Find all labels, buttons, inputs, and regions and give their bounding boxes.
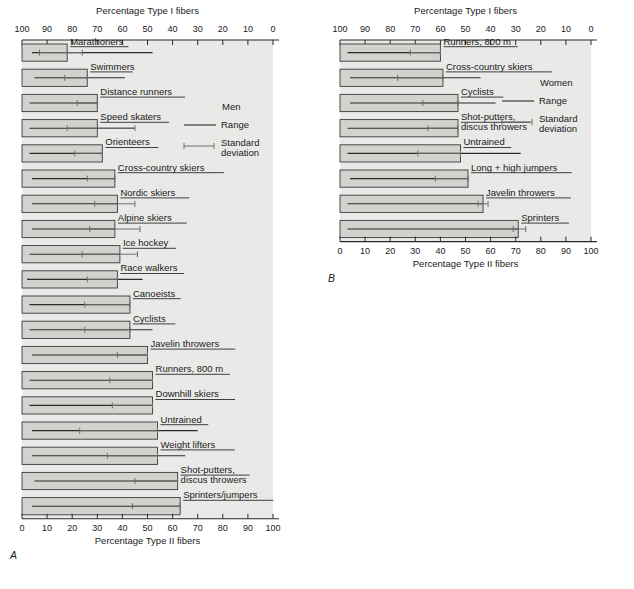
- figure-root: Percentage Type I fibers1009080706050403…: [0, 0, 634, 589]
- bottom-tick-label: 40: [435, 246, 445, 256]
- top-tick-label: 70: [92, 24, 102, 34]
- top-tick-label: 0: [588, 24, 593, 34]
- legend-range-label: Range: [221, 119, 249, 130]
- bottom-tick-label: 80: [218, 523, 228, 533]
- bar-label: Untrained: [463, 136, 504, 147]
- bottom-tick-label: 60: [168, 523, 178, 533]
- bar-label: Long + high jumpers: [471, 162, 558, 173]
- top-tick-label: 20: [536, 24, 546, 34]
- bar-label: Marathoners: [70, 36, 124, 47]
- top-axis-title: Percentage Type I fibers: [96, 5, 199, 16]
- bottom-tick-label: 70: [511, 246, 521, 256]
- top-tick-label: 50: [460, 24, 470, 34]
- bottom-tick-label: 100: [583, 246, 598, 256]
- bottom-tick-label: 80: [536, 246, 546, 256]
- top-tick-label: 20: [218, 24, 228, 34]
- bottom-tick-label: 50: [142, 523, 152, 533]
- top-tick-label: 30: [511, 24, 521, 34]
- panel-a-svg: Percentage Type I fibers1009080706050403…: [0, 0, 320, 589]
- bar-label: Downhill skiers: [156, 388, 220, 399]
- legend-sd-label-2: deviation: [221, 147, 259, 158]
- panel-letter: B: [328, 272, 335, 284]
- top-tick-label: 70: [410, 24, 420, 34]
- bottom-tick-label: 60: [486, 246, 496, 256]
- bottom-tick-label: 0: [337, 246, 342, 256]
- top-tick-label: 80: [67, 24, 77, 34]
- bar-label: Ice hockey: [123, 237, 169, 248]
- bar-label: Sprinters: [521, 212, 559, 223]
- top-tick-label: 100: [332, 24, 347, 34]
- bottom-tick-label: 70: [193, 523, 203, 533]
- panel-b-svg: Percentage Type I fibers1009080706050403…: [318, 0, 634, 320]
- bar-label: Runners, 800 m: [443, 36, 511, 47]
- bottom-axis-title: Percentage Type II fibers: [413, 258, 519, 269]
- bar-label: Swimmers: [90, 61, 135, 72]
- top-tick-label: 60: [117, 24, 127, 34]
- bar-label: Canoeists: [133, 288, 175, 299]
- top-tick-label: 30: [193, 24, 203, 34]
- legend-title: Men: [222, 101, 240, 112]
- top-tick-label: 40: [168, 24, 178, 34]
- bar-label: Cross-country skiers: [446, 61, 533, 72]
- bar-label: Nordic skiers: [120, 187, 175, 198]
- bottom-tick-label: 10: [360, 246, 370, 256]
- top-tick-label: 90: [42, 24, 52, 34]
- bar-label: Sprinters/jumpers: [183, 489, 258, 500]
- bottom-tick-label: 50: [460, 246, 470, 256]
- bar-label: Cyclists: [133, 313, 166, 324]
- chart-panel-b: Percentage Type I fibers1009080706050403…: [318, 0, 634, 320]
- bar-label: Speed skaters: [100, 111, 161, 122]
- bottom-tick-label: 40: [117, 523, 127, 533]
- bottom-tick-label: 30: [92, 523, 102, 533]
- top-tick-label: 90: [360, 24, 370, 34]
- bottom-tick-label: 0: [19, 523, 24, 533]
- legend-title: Women: [540, 77, 573, 88]
- top-tick-label: 100: [14, 24, 29, 34]
- top-tick-label: 50: [142, 24, 152, 34]
- bar-label: Weight lifters: [161, 439, 216, 450]
- bar-label: Alpine skiers: [118, 212, 172, 223]
- legend-range-label: Range: [539, 95, 567, 106]
- bottom-tick-label: 100: [265, 523, 280, 533]
- bottom-tick-label: 90: [243, 523, 253, 533]
- bar-label: Javelin throwers: [486, 187, 555, 198]
- top-axis-title: Percentage Type I fibers: [414, 5, 517, 16]
- bar-label: Orienteers: [105, 136, 150, 147]
- bar-label: Cyclists: [461, 86, 494, 97]
- chart-panel-a: Percentage Type I fibers1009080706050403…: [0, 0, 320, 589]
- bar-label: Javelin throwers: [151, 338, 220, 349]
- bottom-tick-label: 20: [67, 523, 77, 533]
- bottom-axis-title: Percentage Type II fibers: [95, 535, 201, 546]
- bottom-tick-label: 10: [42, 523, 52, 533]
- bottom-tick-label: 90: [561, 246, 571, 256]
- bottom-tick-label: 30: [410, 246, 420, 256]
- bar-label: Untrained: [161, 414, 202, 425]
- bar-label: Cross-country skiers: [118, 162, 205, 173]
- bar-label: Runners, 800 m: [156, 363, 224, 374]
- top-tick-label: 60: [435, 24, 445, 34]
- bar-label: discus throwers: [461, 121, 527, 132]
- bar-label: Distance runners: [100, 86, 172, 97]
- top-tick-label: 80: [385, 24, 395, 34]
- legend-sd-label-2: deviation: [539, 123, 577, 134]
- top-tick-label: 10: [561, 24, 571, 34]
- bottom-tick-label: 20: [385, 246, 395, 256]
- panel-letter: A: [9, 549, 17, 561]
- top-tick-label: 0: [270, 24, 275, 34]
- top-tick-label: 40: [486, 24, 496, 34]
- bar-label: Race walkers: [120, 262, 177, 273]
- top-tick-label: 10: [243, 24, 253, 34]
